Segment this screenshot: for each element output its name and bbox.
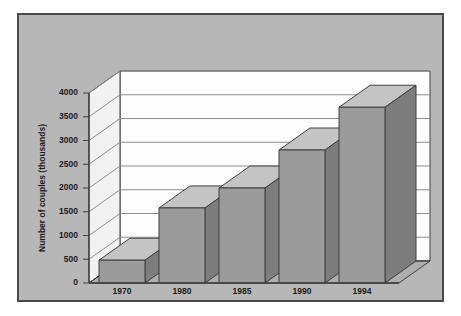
x-tick-label: 1980 — [173, 286, 192, 296]
y-tick-label: 2000 — [59, 182, 78, 192]
chart-figure: 4000 3500 3000 2500 2000 1500 1000 500 0 — [0, 0, 461, 316]
x-tick-label: 1990 — [293, 286, 312, 296]
bar-side-face — [385, 85, 416, 283]
y-tick-labels: 4000 3500 3000 2500 2000 1500 1000 500 0 — [59, 87, 78, 287]
x-tick-label: 1970 — [113, 286, 132, 296]
y-axis — [83, 93, 89, 283]
y-tick-label: 4000 — [59, 87, 78, 97]
y-tick-label: 2500 — [59, 159, 78, 169]
x-tick-label: 1985 — [233, 286, 252, 296]
bar-front-face — [339, 107, 385, 283]
bar-front-face — [159, 208, 205, 283]
y-tick-label: 1500 — [59, 206, 78, 216]
bar-front-face — [219, 188, 265, 283]
y-tick-label: 3000 — [59, 135, 78, 145]
y-tick-label: 0 — [73, 277, 78, 287]
bar-chart-3d: 4000 3500 3000 2500 2000 1500 1000 500 0 — [19, 15, 442, 300]
y-axis-label: Number of couples (thousands) — [37, 124, 47, 252]
y-tick-label: 3500 — [59, 111, 78, 121]
bar-1994[interactable] — [339, 85, 416, 283]
y-tick-label: 1000 — [59, 230, 78, 240]
bar-front-face — [99, 260, 145, 283]
bar-front-face — [279, 150, 325, 283]
chart-panel: 4000 3500 3000 2500 2000 1500 1000 500 0 — [17, 13, 444, 302]
x-tick-labels: 1970 1980 1985 1990 1994 — [113, 286, 372, 296]
x-tick-label: 1994 — [353, 286, 372, 296]
y-tick-label: 500 — [64, 254, 78, 264]
